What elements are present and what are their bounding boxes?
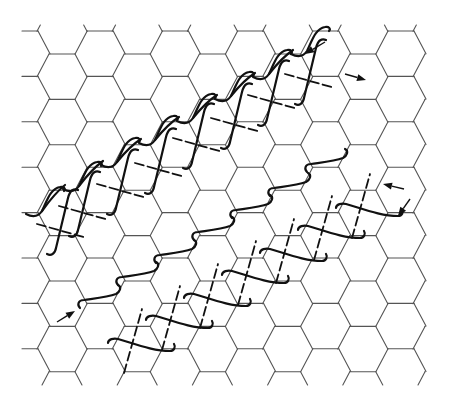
lattice-edge	[150, 372, 157, 385]
lattice-edge	[75, 236, 87, 259]
lattice-edge	[188, 31, 200, 54]
lattice-edge	[37, 25, 40, 31]
lattice-edge	[301, 349, 313, 372]
lattice-edge	[376, 76, 388, 99]
lattice-edge	[301, 236, 313, 259]
lattice-edge	[37, 54, 49, 77]
lattice-edge	[413, 25, 416, 31]
lattice-edge	[376, 258, 388, 281]
lattice-edge	[413, 281, 425, 304]
lattice-edge	[343, 372, 350, 385]
helix-chains	[26, 27, 403, 373]
lattice-edge	[150, 281, 162, 304]
lattice-edge	[37, 281, 49, 304]
lattice-edge	[75, 372, 82, 385]
lattice-edge	[38, 258, 50, 281]
lattice-edge	[263, 326, 275, 349]
lattice-edge	[159, 25, 162, 31]
lattice-edge	[263, 25, 266, 31]
lattice-edge	[413, 326, 425, 349]
lattice-edge	[376, 190, 388, 213]
lattice-edge	[376, 54, 388, 77]
lattice-edge	[187, 281, 199, 304]
lattice-edge	[37, 145, 49, 168]
lattice-edge	[339, 303, 351, 326]
lattice-edge	[113, 31, 125, 54]
lattice-edge	[112, 99, 124, 122]
lattice-edge	[268, 372, 275, 385]
helix-turn	[139, 116, 178, 145]
lattice-edge	[75, 122, 87, 145]
lattice-edge	[301, 326, 313, 349]
lattice-edge	[338, 25, 341, 31]
lattice-edge	[188, 303, 200, 326]
lattice-edge	[376, 122, 388, 145]
lattice-edge	[376, 281, 388, 304]
lattice-edge	[225, 372, 232, 385]
lattice-edge	[150, 31, 162, 54]
lattice-edge	[264, 31, 276, 54]
lattice-edge	[338, 99, 350, 122]
lattice-edge	[75, 258, 87, 281]
lattice-edge	[339, 213, 351, 236]
lattice-edge	[75, 76, 87, 99]
lattice-edge	[150, 54, 162, 77]
arrow-lower-start	[57, 311, 75, 322]
lattice-edge	[338, 236, 350, 259]
helix-turn	[177, 94, 216, 123]
lattice-edge	[376, 236, 388, 259]
lattice-edge	[37, 99, 49, 122]
lattice-edge	[117, 372, 124, 385]
lattice-edge	[38, 122, 50, 145]
helix-lower-double	[108, 174, 403, 373]
lattice-edge	[112, 25, 115, 31]
arrow-shaft	[345, 74, 357, 78]
lattice-edge	[150, 213, 162, 236]
arrow-shaft	[392, 186, 404, 189]
helix-turn	[154, 240, 196, 263]
helix-strand-front	[336, 204, 403, 216]
lattice-edge	[301, 258, 313, 281]
helix-strand-front	[107, 149, 138, 214]
lattice-edge	[150, 190, 162, 213]
lattice-edge	[414, 167, 426, 190]
lattice-edge	[339, 349, 351, 372]
lattice-edge	[376, 326, 388, 349]
lattice-edge	[339, 258, 351, 281]
helix-turn	[101, 138, 140, 167]
honeycomb-helix-diagram	[0, 0, 449, 404]
lattice-edge	[413, 99, 425, 122]
lattice-edge	[414, 213, 426, 236]
lattice-edge	[226, 349, 238, 372]
lattice-edge	[234, 25, 237, 31]
lattice-edge	[226, 258, 238, 281]
lattice-edge	[225, 281, 237, 304]
lattice-edge	[413, 54, 425, 77]
lattice-edge	[187, 25, 190, 31]
lattice-edge	[113, 213, 125, 236]
lattice-edge	[75, 326, 87, 349]
lattice-edge	[339, 76, 351, 99]
arrow-head-icon	[383, 183, 393, 190]
lattice-edge	[309, 25, 312, 31]
lattice-edge	[418, 372, 425, 385]
lattice-edge	[301, 213, 313, 236]
lattice-edge	[339, 31, 351, 54]
lattice-edge	[339, 122, 351, 145]
arrow-right-end-in	[383, 183, 404, 190]
lattice-edge	[264, 122, 276, 145]
lattice-edge	[264, 167, 276, 190]
lattice-edge	[84, 25, 87, 31]
lattice-edge	[150, 326, 162, 349]
helix-strand-front	[260, 249, 327, 261]
lattice-edge	[37, 326, 49, 349]
lattice-edge	[301, 303, 313, 326]
lattice-edge	[414, 31, 426, 54]
lattice-edge	[42, 372, 49, 385]
lattice-edge	[301, 190, 313, 213]
lattice-edge	[38, 349, 50, 372]
lattice-edge	[225, 54, 237, 77]
helix-strand-front	[145, 128, 176, 193]
lattice-edge	[263, 236, 275, 259]
lattice-edge	[38, 167, 50, 190]
